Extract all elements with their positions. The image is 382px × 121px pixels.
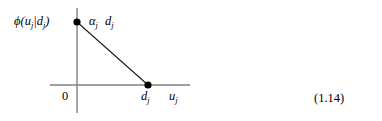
intercept-point-marker bbox=[73, 18, 80, 25]
x-axis-name-label: uj bbox=[169, 90, 178, 103]
x-tick-label-dj: dj bbox=[141, 90, 150, 103]
figure-container: ϕ(uj|dj) αjdj 0 dj uj (1.14) bbox=[0, 0, 382, 121]
slope-annotation-label: αjdj bbox=[89, 15, 114, 28]
equation-number: (1.14) bbox=[314, 92, 344, 105]
utility-function-line bbox=[77, 22, 148, 85]
y-axis-function-label: ϕ(uj|dj) bbox=[14, 15, 50, 28]
origin-tick-label: 0 bbox=[62, 90, 68, 103]
x-intercept-point-marker bbox=[144, 81, 151, 88]
